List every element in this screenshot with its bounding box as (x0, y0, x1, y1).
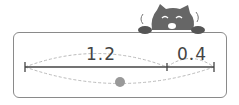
segment-label-1: 1.2 (86, 46, 116, 63)
unknown-dot (115, 77, 125, 87)
segment-label-2: 0.4 (177, 46, 207, 63)
cat-peeking-icon (138, 4, 205, 34)
